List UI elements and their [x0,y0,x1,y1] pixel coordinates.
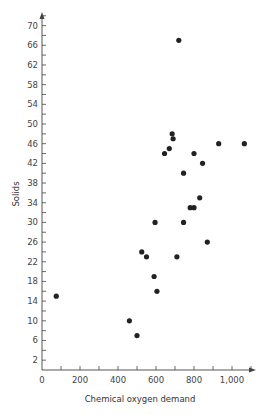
data-point [197,195,202,200]
data-point [205,239,210,244]
scatter-chart: 02004006008001,0002610141822263034384246… [0,0,270,415]
data-point [174,254,179,259]
data-point [134,333,139,338]
data-point [170,131,175,136]
data-points [54,38,247,338]
x-tick-label: 0 [39,375,44,385]
y-tick-label: 34 [27,198,38,208]
y-axis-title: Solids [11,181,21,207]
data-point [171,136,176,141]
data-point [181,171,186,176]
y-tick-label: 58 [27,80,38,90]
data-point [152,220,157,225]
data-point [152,274,157,279]
data-point [154,289,159,294]
data-point [162,151,167,156]
x-tick-label: 400 [110,375,126,385]
data-point [54,294,59,299]
y-tick-label: 26 [27,237,38,247]
data-point [191,151,196,156]
y-tick-label: 46 [27,139,38,149]
y-tick-label: 22 [27,257,38,267]
y-tick-label: 38 [27,178,38,188]
data-point [200,161,205,166]
data-point [242,141,247,146]
y-tick-label: 62 [27,60,38,70]
data-point [181,220,186,225]
y-tick-label: 42 [27,158,38,168]
data-point [191,205,196,210]
y-tick-label: 18 [27,276,38,286]
x-axis-title: Chemical oxygen demand [85,394,196,404]
y-tick-label: 54 [27,99,38,109]
axes: 02004006008001,0002610141822263034384246… [27,12,256,385]
y-tick-label: 50 [27,119,38,129]
y-tick-label: 6 [33,335,38,345]
x-tick-label: 200 [72,375,88,385]
x-tick-label: 600 [148,375,164,385]
data-point [144,254,149,259]
y-tick-label: 70 [27,21,38,31]
data-point [216,141,221,146]
y-tick-label: 66 [27,40,38,50]
y-tick-label: 10 [27,316,38,326]
x-axis-arrow-icon [249,368,256,373]
x-tick-label: 1,000 [220,375,244,385]
y-tick-label: 14 [27,296,38,306]
y-tick-label: 2 [33,355,38,365]
y-tick-label: 30 [27,217,38,227]
data-point [139,249,144,254]
x-tick-label: 800 [186,375,202,385]
data-point [167,146,172,151]
data-point [127,318,132,323]
data-point [176,38,181,43]
